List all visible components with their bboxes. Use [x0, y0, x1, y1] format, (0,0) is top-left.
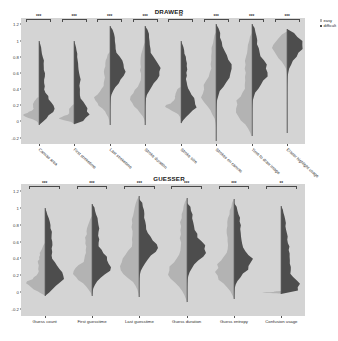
violin-group — [120, 184, 158, 316]
violin-half-easy — [73, 216, 92, 296]
x-axis-tick-mark — [45, 316, 46, 318]
significance-bracket: *** — [133, 15, 158, 21]
violin-center-line — [139, 196, 140, 298]
significance-bar — [219, 186, 249, 187]
significance-tick-left — [77, 186, 78, 189]
violin-group — [73, 184, 111, 316]
significance-bar — [266, 186, 296, 187]
significance-bar — [275, 19, 300, 20]
x-axis-tick-mark — [252, 144, 253, 146]
violin-group — [23, 18, 54, 144]
significance-tick-right — [106, 186, 107, 189]
significance-bracket: *** — [239, 15, 264, 21]
significance-bar — [124, 186, 154, 187]
y-axis-tick-mark — [20, 24, 22, 25]
x-axis-label: Last guesstime — [125, 319, 154, 324]
x-axis-label: Stroke duration — [144, 147, 168, 170]
y-axis-tick-label: -0.2 — [12, 135, 19, 140]
significance-tick-left — [133, 19, 134, 22]
violin-group — [262, 184, 300, 316]
significance-stars: *** — [77, 181, 107, 186]
x-axis-label: First stroketime — [73, 147, 98, 170]
violin-half-easy — [26, 243, 45, 295]
significance-tick-right — [263, 19, 264, 22]
violin-half-easy — [120, 196, 139, 298]
y-axis-tick-mark — [20, 190, 22, 191]
significance-tick-left — [29, 186, 30, 189]
significance-tick-right — [299, 19, 300, 22]
y-axis-tick-mark — [20, 72, 22, 73]
y-axis-tick-mark — [20, 40, 22, 41]
violin-half-difficult — [187, 203, 206, 303]
significance-bracket: *** — [275, 15, 300, 21]
violin-center-line — [234, 199, 235, 299]
y-axis-tick-mark — [20, 105, 22, 106]
violin-group — [130, 18, 161, 144]
y-axis-tick-mark — [20, 207, 22, 208]
y-axis-tick-mark — [20, 121, 22, 122]
violin-half-difficult — [110, 26, 126, 125]
violin-half-easy — [94, 52, 110, 126]
violin-half-difficult — [252, 24, 268, 129]
significance-bar — [168, 19, 193, 20]
y-axis-tick-mark — [20, 56, 22, 57]
significance-tick-right — [121, 19, 122, 22]
legend-label-difficult: difficult — [324, 23, 336, 28]
violin-center-line — [92, 204, 93, 295]
violin-group — [26, 184, 64, 316]
legend-swatch-easy — [320, 19, 322, 21]
y-axis-tick-mark — [20, 137, 22, 138]
x-axis-label: Guess duration — [172, 319, 201, 324]
violin-half-difficult — [287, 29, 303, 132]
x-axis-tick-mark — [74, 144, 75, 146]
violin-group — [272, 18, 303, 144]
x-axis-tick-mark — [234, 316, 235, 318]
x-axis-tick-mark — [39, 144, 40, 146]
x-axis-tick-mark — [139, 316, 140, 318]
significance-stars: ** — [168, 14, 193, 19]
guesser-plot-area: -0.200.20.40.60.811.2***Guess count***Fi… — [21, 184, 305, 316]
significance-tick-left — [124, 186, 125, 189]
violin-group — [94, 18, 125, 144]
significance-bar — [171, 186, 201, 187]
significance-tick-left — [275, 19, 276, 22]
violin-center-line — [44, 208, 45, 296]
violin-center-line — [251, 24, 252, 135]
significance-tick-right — [157, 19, 158, 22]
x-axis-label: First guesstime — [77, 319, 106, 324]
legend: easy difficult — [320, 18, 336, 28]
significance-tick-left — [97, 19, 98, 22]
significance-bracket: ** — [266, 182, 296, 188]
violin-half-easy — [23, 97, 39, 124]
significance-stars: *** — [62, 14, 87, 19]
y-axis-tick-label: 0.2 — [13, 103, 19, 108]
y-axis-tick-label: -0.2 — [12, 307, 19, 312]
significance-tick-left — [204, 19, 205, 22]
x-axis-label: Guess count — [33, 319, 57, 324]
guesser-chart-panel: GUESSER -0.200.20.40.60.811.2***Guess co… — [0, 170, 338, 341]
significance-tick-left — [219, 186, 220, 189]
violin-half-difficult — [139, 199, 158, 297]
significance-bar — [26, 19, 51, 20]
violin-center-line — [180, 41, 181, 123]
violin-half-easy — [272, 31, 288, 120]
violin-center-line — [74, 41, 75, 124]
violin-half-difficult — [74, 41, 90, 124]
violin-half-difficult — [45, 208, 64, 296]
significance-tick-right — [296, 186, 297, 189]
significance-tick-left — [62, 19, 63, 22]
x-axis-tick-mark — [145, 144, 146, 146]
y-axis-tick-mark — [20, 241, 22, 242]
violin-half-easy — [236, 33, 252, 136]
x-axis-tick-mark — [287, 144, 288, 146]
x-axis-label: Guess entropy — [220, 319, 248, 324]
violin-half-easy — [215, 199, 234, 299]
significance-stars: *** — [133, 14, 158, 19]
violin-center-line — [38, 41, 39, 125]
significance-stars: *** — [29, 181, 59, 186]
legend-item-difficult: difficult — [320, 23, 336, 28]
x-axis-label: Confusion usage — [265, 319, 297, 324]
significance-bracket: *** — [26, 15, 51, 21]
x-axis-tick-mark — [92, 316, 93, 318]
x-axis-tick-mark — [181, 144, 182, 146]
